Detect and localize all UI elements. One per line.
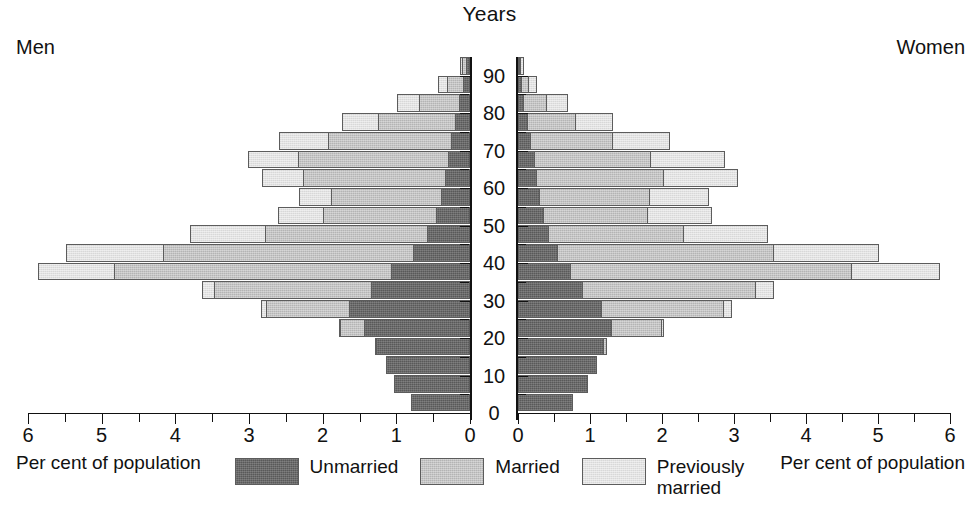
age-tick [460,132,469,133]
bar-segment-previously-married [648,207,711,225]
age-tick [517,338,528,339]
bar-row [518,76,537,94]
age-tick [517,151,528,152]
bar-segment-married [612,319,662,337]
bar-segment-unmarried [446,169,470,187]
age-tick [460,357,469,358]
value-tick [734,413,735,424]
age-tick-label: 60 [470,178,518,198]
bar-row [518,356,597,374]
bar-segment-unmarried [372,281,470,299]
bar-row [518,375,588,393]
bar-segment-previously-married [438,76,448,94]
value-tick [554,413,555,422]
bar-segment-unmarried [449,151,470,169]
value-tick-label: 1 [584,425,595,445]
bar-segment-previously-married [774,244,879,262]
bar-segment-unmarried [456,113,470,131]
value-tick-label: 6 [944,425,955,445]
age-tick [460,169,469,170]
bar-segment-married [324,207,437,225]
age-tick-label: 10 [470,366,518,386]
age-tick-label: 70 [470,141,518,161]
value-tick-label: 3 [243,425,254,445]
bar-row [518,188,709,206]
age-tick [517,76,528,77]
bar-segment-married [341,319,365,337]
age-tick [517,169,526,170]
age-tick-label: 30 [470,291,518,311]
bar-segment-previously-married [529,76,538,94]
value-tick-label: 0 [512,425,523,445]
bar-row [518,263,940,281]
bar-segment-unmarried [518,300,602,318]
value-tick [806,413,807,424]
bar-row [518,338,607,356]
bar-segment-unmarried [518,338,604,356]
bar-segment-previously-married [756,281,774,299]
bar-segment-married [379,113,456,131]
bar-segment-married [304,169,446,187]
value-tick [626,413,627,422]
bar-segment-married [329,132,453,150]
bar-row [397,94,470,112]
age-tick [460,94,469,95]
value-tick-label: 5 [96,425,107,445]
age-tick [460,207,469,208]
value-tick [102,413,103,424]
value-tick-label: 4 [800,425,811,445]
women-bars-pane [518,57,950,413]
value-tick-label: 4 [170,425,181,445]
bar-segment-married [540,188,649,206]
bar-segment-unmarried [518,113,528,131]
value-tick-label: 1 [391,425,402,445]
bar-segment-unmarried [518,281,583,299]
bar-row [518,319,664,337]
bar-row [518,57,524,75]
bar-segment-unmarried [392,263,470,281]
age-tick [460,394,469,395]
value-tick [662,413,663,424]
bar-segment-unmarried [518,207,544,225]
age-tick-label: 40 [470,253,518,273]
bar-row [518,113,613,131]
bar-segment-previously-married [576,113,613,131]
bar-row [339,319,470,337]
value-tick [950,413,951,424]
bar-segment-married [420,94,461,112]
age-tick [517,244,526,245]
age-tick [517,207,526,208]
age-tick [517,113,528,114]
legend-label-married: Married [495,456,559,477]
bar-segment-unmarried [411,394,470,412]
value-tick-label: 2 [656,425,667,445]
bar-segment-unmarried [442,188,470,206]
bar-segment-married [267,300,350,318]
bar-segment-unmarried [518,356,597,374]
value-tick [286,413,287,422]
bar-segment-married [115,263,392,281]
value-tick [770,413,771,422]
value-tick [28,413,29,424]
bar-segment-previously-married [342,113,379,131]
legend-swatch-unmarried [235,458,299,485]
bar-segment-married [448,76,464,94]
bar-segment-married [528,113,576,131]
bar-segment-married [524,94,546,112]
bar-segment-unmarried [394,375,470,393]
bar-row [518,169,738,187]
bar-segment-unmarried [460,94,470,112]
legend-item-married: Married [420,456,559,485]
age-tick-label: 50 [470,216,518,236]
bar-segment-unmarried [518,169,537,187]
value-tick-label: 2 [317,425,328,445]
age-tick-label: 20 [470,328,518,348]
bar-row [386,356,470,374]
bar-row [261,300,470,318]
bar-segment-previously-married [202,281,215,299]
value-tick [470,413,471,424]
age-tick [460,319,469,320]
age-tick [517,94,526,95]
value-tick-label: 6 [22,425,33,445]
bar-row [518,281,774,299]
